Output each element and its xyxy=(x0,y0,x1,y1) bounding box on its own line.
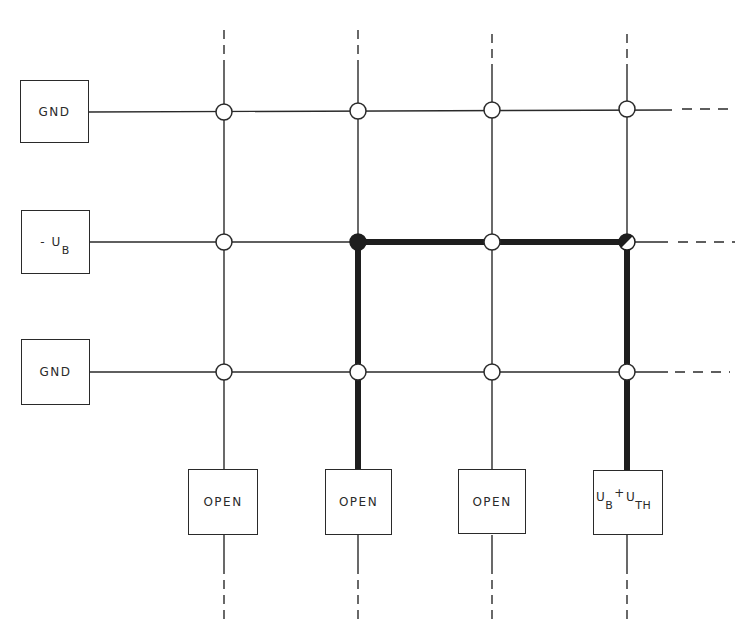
column-label: UB+UTH xyxy=(596,490,651,504)
column-load-open-3: OPEN xyxy=(458,469,526,534)
row-label: GND xyxy=(38,105,70,119)
crosspoint-open xyxy=(216,104,232,120)
crosspoint-open xyxy=(216,364,232,380)
crosspoint-matrix-diagram: GND - UB GND OPEN OPEN OPEN UB+UTH xyxy=(0,0,752,634)
column-load-open-2: OPEN xyxy=(325,469,392,535)
crosspoint-open xyxy=(350,103,366,119)
crosspoint-open xyxy=(350,364,366,380)
crosspoint-closed xyxy=(350,234,366,250)
crosspoint-open xyxy=(484,234,500,250)
matrix-lines xyxy=(0,0,752,634)
row-line xyxy=(88,110,672,112)
row-source-minus-ub: - UB xyxy=(21,210,90,274)
column-label: OPEN xyxy=(203,495,242,509)
crosspoint-open xyxy=(216,234,232,250)
row-label: - UB xyxy=(40,235,70,249)
crosspoint-open xyxy=(619,101,635,117)
column-load-ub-plus-uth: UB+UTH xyxy=(593,470,663,535)
column-label: OPEN xyxy=(472,495,511,509)
column-load-open-1: OPEN xyxy=(188,469,258,535)
row-source-gnd-top: GND xyxy=(20,80,89,143)
crosspoint-open xyxy=(619,364,635,380)
row-label: GND xyxy=(39,365,71,379)
row-source-gnd-bottom: GND xyxy=(21,339,90,405)
crosspoint-open xyxy=(484,102,500,118)
crosspoint-half-closed xyxy=(619,234,635,250)
column-label: OPEN xyxy=(339,495,378,509)
crosspoint-open xyxy=(484,364,500,380)
